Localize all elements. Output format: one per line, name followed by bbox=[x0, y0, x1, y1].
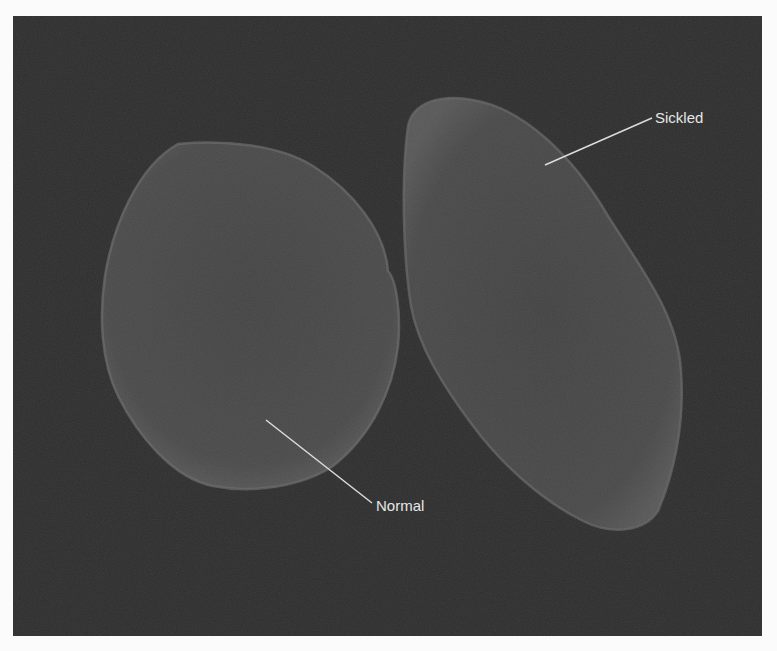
sickled-label: Sickled bbox=[655, 110, 703, 125]
normal-label: Normal bbox=[376, 498, 424, 513]
grain-overlay bbox=[13, 16, 762, 636]
micrograph-panel: Sickled Normal bbox=[13, 16, 762, 636]
micrograph-svg bbox=[13, 16, 762, 636]
